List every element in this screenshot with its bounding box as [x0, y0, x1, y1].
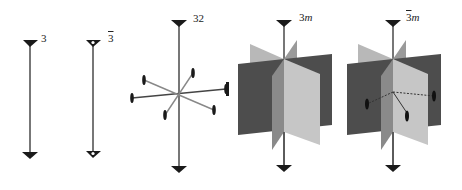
label-suffix: m — [305, 11, 313, 23]
threefold-bottom-icon — [171, 166, 187, 173]
symmetry-diagram — [0, 0, 462, 190]
panel-threefold-axis — [22, 40, 38, 159]
panel-32 — [130, 20, 228, 173]
label-32: 32 — [193, 13, 204, 24]
threefold-top-icon — [23, 40, 38, 47]
threefold-top-icon — [171, 20, 187, 27]
label-3: 3 — [41, 33, 47, 44]
label-text: 3 — [108, 32, 114, 44]
twofold-marker-icon — [405, 111, 409, 122]
twofold-marker-icon — [365, 99, 369, 110]
inversion-dot-bottom-icon — [91, 152, 94, 155]
twofold-marker-icon — [163, 110, 167, 120]
label-suffix: m — [412, 11, 420, 23]
threefold-top-icon — [276, 20, 292, 27]
inversion-dot-top-icon — [91, 41, 94, 44]
label-text: 32 — [193, 12, 204, 24]
rotoinversion-top-icon — [385, 20, 401, 27]
twofold-marker-icon — [432, 91, 436, 102]
label-3bar-m: 3m — [406, 12, 419, 23]
symmetry-figure: 3 3 32 3m 3m — [0, 0, 462, 190]
mirror-plane-front-right — [393, 59, 428, 145]
rotoinversion-bottom-icon — [385, 165, 401, 172]
label-3bar: 3 — [108, 33, 114, 44]
panel-3m — [226, 20, 332, 172]
twofold-marker-icon — [191, 68, 195, 78]
panel-rotoinversion-axis — [86, 40, 101, 158]
panel-3bar-m — [347, 20, 441, 172]
twofold-marker-icon — [212, 105, 216, 115]
mirror-plane-front-right — [284, 59, 320, 145]
threefold-bottom-icon — [22, 152, 38, 159]
twofold-marker-icon — [130, 93, 134, 103]
label-3m: 3m — [299, 12, 312, 23]
threefold-bottom-icon — [276, 165, 292, 172]
label-text: 3 — [41, 32, 47, 44]
twofold-marker-icon — [142, 75, 146, 85]
edge-marker-icon — [226, 82, 229, 96]
